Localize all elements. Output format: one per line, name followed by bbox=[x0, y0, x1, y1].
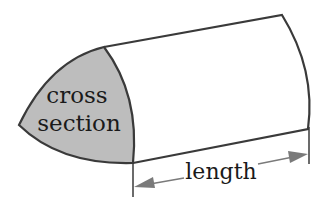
prism-diagram-svg: cross section length bbox=[0, 0, 332, 207]
length-label: length bbox=[185, 159, 256, 184]
diagram: cross section length bbox=[0, 0, 332, 207]
length-arrow-right-line bbox=[258, 157, 293, 164]
cross-section-label-line2: section bbox=[37, 110, 121, 136]
arrowhead-right-icon bbox=[288, 151, 308, 163]
length-arrow-left-line bbox=[150, 178, 184, 184]
cross-section-label-line1: cross bbox=[46, 82, 107, 108]
arrowhead-left-icon bbox=[134, 177, 155, 188]
